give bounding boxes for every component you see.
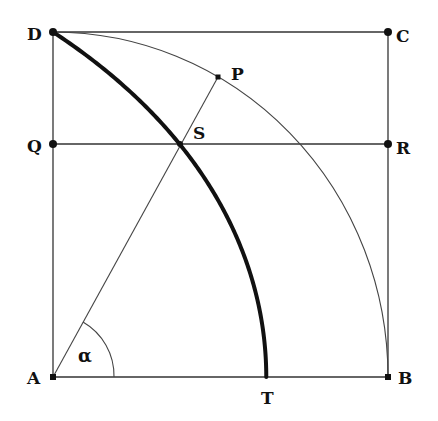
label-C: C (396, 26, 410, 46)
label-S: S (193, 123, 205, 143)
point-R (384, 140, 392, 148)
label-Q: Q (27, 136, 42, 156)
point-Q (49, 140, 57, 148)
label-D: D (27, 24, 42, 44)
point-A (50, 374, 56, 380)
label-alpha: α (78, 345, 92, 366)
label-B: B (398, 368, 412, 388)
point-C (384, 28, 392, 36)
quadratrix-diagram: D C Q R S P A B T α (0, 0, 438, 421)
ray-AP (53, 77, 218, 377)
label-T: T (261, 388, 274, 408)
point-P (216, 75, 221, 80)
label-P: P (231, 64, 244, 84)
point-B (385, 374, 391, 380)
point-S (177, 141, 183, 147)
point-D (49, 28, 57, 36)
label-A: A (26, 368, 41, 388)
label-R: R (396, 138, 411, 158)
